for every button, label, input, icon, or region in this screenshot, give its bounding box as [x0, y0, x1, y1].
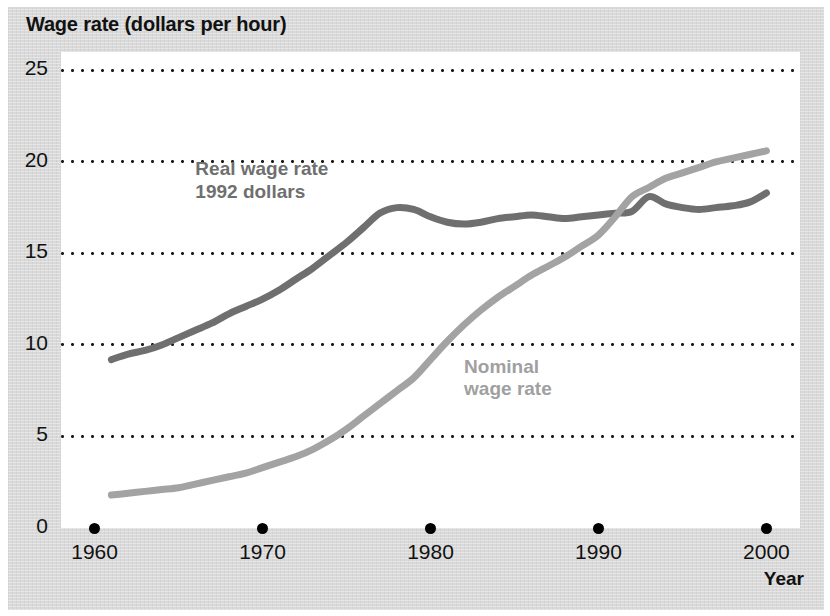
series-label-nominal-line2: wage rate	[464, 378, 552, 400]
figure-border-right	[824, 0, 830, 616]
y-tick-label-20: 20	[0, 148, 58, 172]
x-tick-label-1990: 1990	[553, 540, 643, 564]
figure-border-bottom	[0, 610, 830, 616]
figure-border-top	[0, 0, 830, 7]
chart-title: Wage rate (dollars per hour)	[26, 13, 286, 36]
plot-area	[61, 52, 800, 528]
y-tick-label-0: 0	[0, 514, 58, 538]
x-tick-label-2000: 2000	[721, 540, 811, 564]
chart-figure: Wage rate (dollars per hour) 0510152025 …	[0, 0, 830, 616]
y-tick-label-25: 25	[0, 56, 58, 80]
x-tick-label-1980: 1980	[386, 540, 476, 564]
y-tick-label-10: 10	[0, 331, 58, 355]
series-label-real-line2: 1992 dollars	[195, 181, 328, 203]
series-label-real-wage-rate: Real wage rate 1992 dollars	[195, 158, 328, 203]
series-label-nominal-wage-rate: Nominal wage rate	[464, 356, 552, 401]
x-tick-mark-2000	[761, 523, 772, 534]
y-tick-label-15: 15	[0, 239, 58, 263]
y-tick-label-5: 5	[0, 422, 58, 446]
x-tick-mark-1960	[89, 523, 100, 534]
series-curves	[61, 52, 800, 528]
x-tick-mark-1980	[425, 523, 436, 534]
series-label-nominal-line1: Nominal	[464, 356, 552, 378]
x-tick-label-1960: 1960	[50, 540, 140, 564]
x-tick-label-1970: 1970	[218, 540, 308, 564]
series-line-real-wage-rate	[111, 193, 766, 360]
series-label-real-line1: Real wage rate	[195, 158, 328, 180]
x-tick-mark-1970	[257, 523, 268, 534]
x-tick-mark-1990	[593, 523, 604, 534]
x-axis-title: Year	[712, 568, 804, 590]
